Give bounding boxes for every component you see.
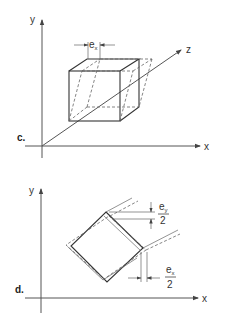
ext-top-1 [106,198,132,212]
ext-right-1 [143,230,178,248]
ex-dimension-d: ex 2 [128,252,176,290]
z-axis-label-c: z [186,44,191,55]
panel-c: ex y x z c. [17,14,209,158]
ext-top-2 [110,201,138,216]
diamond-inner-edge [104,216,141,251]
cube-solid [69,59,139,121]
y-axis-label-d: y [29,185,34,196]
ex-label-c: ex [89,39,98,51]
ex-numerator: ex [166,264,175,276]
x-axis-label-d: x [202,293,207,304]
panel-label-d: d. [15,284,24,295]
diamond-solid [71,212,143,282]
panel-d: ey 2 ex 2 y x d. [15,185,207,313]
panel-label-c: c. [17,132,26,143]
ex-dimension-c: ex [74,39,115,59]
ey-numerator: ey [159,201,168,213]
x-axis-label-c: x [204,141,209,152]
y-axis-label-c: y [30,14,35,25]
diagram-canvas: ex y x z c. ey 2 [0,0,226,331]
ext-right-2 [146,234,180,250]
cube-hidden-edges [69,107,139,121]
ey-denominator: 2 [160,215,166,226]
diamond-dashed [66,216,146,279]
z-axis-c [42,50,181,146]
ex-denominator: 2 [167,279,173,290]
